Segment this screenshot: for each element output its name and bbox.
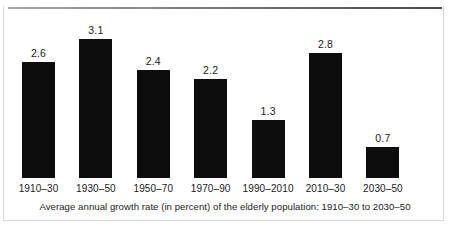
bar-value-label: 2.6 <box>31 47 46 59</box>
x-axis-tick-label: 2030–50 <box>363 183 403 194</box>
x-axis-label-row: 1910–301930–501950–701970–901990–2010201… <box>0 183 450 198</box>
bar-group: 2.4 <box>137 0 170 182</box>
bar-value-label: 2.4 <box>146 55 161 67</box>
bar-value-label: 1.3 <box>260 105 275 117</box>
bar-group: 3.1 <box>79 0 112 182</box>
bar-group: 2.2 <box>194 0 227 182</box>
bar <box>22 62 55 178</box>
bar <box>309 53 342 178</box>
bar <box>194 79 227 178</box>
bar-group: 2.8 <box>309 0 342 182</box>
bar <box>366 147 399 178</box>
bar-value-label: 2.8 <box>318 38 333 50</box>
x-axis-tick-label: 1990–2010 <box>243 183 294 194</box>
chart-caption: Average annual growth rate (in percent) … <box>0 201 450 212</box>
x-axis-tick-label: 1910–30 <box>19 183 59 194</box>
figure-border-bottom <box>3 220 444 221</box>
bar-value-label: 0.7 <box>375 132 390 144</box>
bar-group: 0.7 <box>366 0 399 182</box>
bar <box>252 120 285 178</box>
bar-value-label: 2.2 <box>203 64 218 76</box>
bar-group: 1.3 <box>252 0 285 182</box>
x-axis-tick-label: 1930–50 <box>76 183 116 194</box>
x-axis-tick-label: 1970–90 <box>191 183 231 194</box>
bar <box>79 39 112 178</box>
x-axis-tick-label: 1950–70 <box>133 183 173 194</box>
plot-area: 2.63.12.42.21.32.80.7 <box>0 0 450 182</box>
bar-value-label: 3.1 <box>88 24 103 36</box>
bar-chart-figure: 2.63.12.42.21.32.80.7 1910–301930–501950… <box>0 0 450 228</box>
bar <box>137 70 170 178</box>
bar-group: 2.6 <box>22 0 55 182</box>
x-axis-tick-label: 2010–30 <box>306 183 346 194</box>
